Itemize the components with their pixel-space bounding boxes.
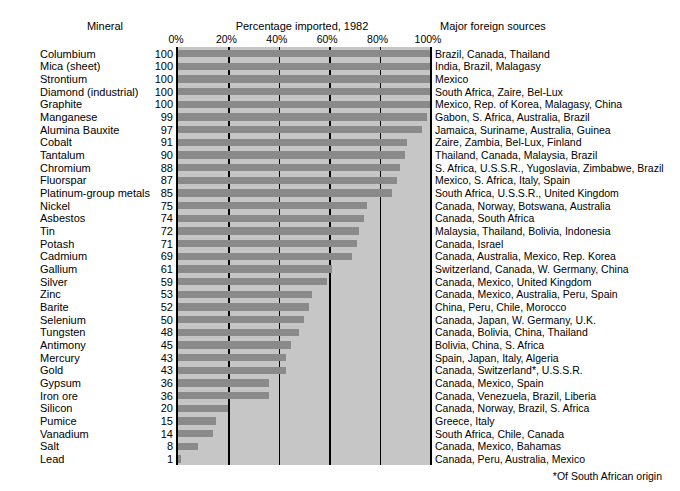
foreign-sources: Greece, Italy	[435, 415, 680, 428]
x-tick-label: 0%	[168, 33, 183, 45]
bar	[178, 139, 407, 146]
bar	[178, 455, 181, 462]
bar	[178, 253, 352, 260]
percent-value: 14	[130, 428, 173, 441]
percent-value: 69	[130, 250, 173, 263]
foreign-sources: South Africa, U.S.S.R., United Kingdom	[435, 187, 680, 200]
foreign-sources: South Africa, Zaire, Bel-Lux	[435, 86, 680, 99]
percent-value: 72	[130, 225, 173, 238]
x-tick-label: 20%	[216, 33, 237, 45]
percent-value: 100	[130, 86, 173, 99]
foreign-sources: Canada, Peru, Australia, Mexico	[435, 453, 680, 466]
column-header-mineral: Mineral	[40, 20, 170, 32]
foreign-sources: Thailand, Canada, Malaysia, Brazil	[435, 149, 680, 162]
percent-value: 75	[130, 200, 173, 213]
column-header-sources: Major foreign sources	[440, 20, 670, 32]
percent-value: 97	[130, 124, 173, 137]
percent-value: 45	[130, 339, 173, 352]
bar	[178, 88, 430, 95]
foreign-sources: Malaysia, Thailand, Bolivia, Indonesia	[435, 225, 680, 238]
percent-value: 43	[130, 352, 173, 365]
bar	[178, 177, 397, 184]
bar	[178, 443, 198, 450]
foreign-sources: Mexico, Rep. of Korea, Malagasy, China	[435, 98, 680, 111]
percent-value: 50	[130, 314, 173, 327]
bar	[178, 329, 299, 336]
foreign-sources: India, Brazil, Malagasy	[435, 60, 680, 73]
percent-value: 52	[130, 301, 173, 314]
foreign-sources: Mexico, S. Africa, Italy, Spain	[435, 174, 680, 187]
bar	[178, 164, 400, 171]
bar	[178, 379, 269, 386]
bar	[178, 215, 364, 222]
percent-value: 87	[130, 174, 173, 187]
percent-value: 74	[130, 212, 173, 225]
chart-title: Percentage imported, 1982	[176, 20, 428, 32]
foreign-sources: Switzerland, Canada, W. Germany, China	[435, 263, 680, 276]
bar	[178, 354, 286, 361]
chart-row: Lead1Canada, Peru, Australia, Mexico	[0, 452, 680, 466]
foreign-sources: Canada, Venezuela, Brazil, Liberia	[435, 390, 680, 403]
bar	[178, 189, 392, 196]
x-tick-label: 100%	[415, 33, 442, 45]
bar	[178, 151, 405, 158]
bar	[178, 278, 327, 285]
foreign-sources: Canada, Mexico, Spain	[435, 377, 680, 390]
bar	[178, 405, 228, 412]
foreign-sources: Canada, Norway, Botswana, Australia	[435, 200, 680, 213]
percent-value: 53	[130, 288, 173, 301]
bar	[178, 113, 427, 120]
bar	[178, 303, 309, 310]
percent-value: 36	[130, 377, 173, 390]
import-dependence-chart: Mineral Percentage imported, 1982 Major …	[0, 0, 680, 491]
bar	[178, 265, 332, 272]
foreign-sources: Canada, Mexico, Bahamas	[435, 440, 680, 453]
foreign-sources: Canada, Switzerland*, U.S.S.R.	[435, 364, 680, 377]
foreign-sources: Brazil, Canada, Thailand	[435, 48, 680, 61]
percent-value: 71	[130, 238, 173, 251]
foreign-sources: Canada, Japan, W. Germany, U.K.	[435, 314, 680, 327]
x-tick-label: 60%	[317, 33, 338, 45]
percent-value: 99	[130, 111, 173, 124]
percent-value: 59	[130, 276, 173, 289]
percent-value: 100	[130, 60, 173, 73]
percent-value: 100	[130, 73, 173, 86]
percent-value: 20	[130, 402, 173, 415]
x-tick-label: 80%	[367, 33, 388, 45]
bar	[178, 316, 304, 323]
bar	[178, 367, 286, 374]
percent-value: 91	[130, 136, 173, 149]
percent-value: 8	[130, 440, 173, 453]
bar	[178, 126, 422, 133]
percent-value: 90	[130, 149, 173, 162]
percent-value: 36	[130, 390, 173, 403]
bar	[178, 240, 357, 247]
foreign-sources: Gabon, S. Africa, Australia, Brazil	[435, 111, 680, 124]
bar	[178, 227, 359, 234]
percent-value: 88	[130, 162, 173, 175]
foreign-sources: Canada, Bolivia, China, Thailand	[435, 326, 680, 339]
percent-value: 61	[130, 263, 173, 276]
foreign-sources: China, Peru, Chile, Morocco	[435, 301, 680, 314]
chart-footnote: *Of South African origin	[400, 470, 662, 482]
foreign-sources: Jamaica, Suriname, Australia, Guinea	[435, 124, 680, 137]
bar	[178, 50, 430, 57]
percent-value: 100	[130, 98, 173, 111]
foreign-sources: Canada, Mexico, United Kingdom	[435, 276, 680, 289]
bar	[178, 417, 216, 424]
bar	[178, 101, 430, 108]
bar	[178, 291, 312, 298]
foreign-sources: Canada, South Africa	[435, 212, 680, 225]
x-tick-label: 40%	[266, 33, 287, 45]
foreign-sources: S. Africa, U.S.S.R., Yugoslavia, Zimbabw…	[435, 162, 680, 175]
percent-value: 48	[130, 326, 173, 339]
x-axis-tick-labels: 0%20%40%60%80%100%	[0, 33, 680, 47]
foreign-sources: Zaire, Zambia, Bel-Lux, Finland	[435, 136, 680, 149]
bar	[178, 341, 291, 348]
foreign-sources: Bolivia, China, S. Africa	[435, 339, 680, 352]
percent-value: 43	[130, 364, 173, 377]
bar	[178, 392, 269, 399]
bar	[178, 75, 430, 82]
foreign-sources: Canada, Australia, Mexico, Rep. Korea	[435, 250, 680, 263]
bar	[178, 430, 213, 437]
